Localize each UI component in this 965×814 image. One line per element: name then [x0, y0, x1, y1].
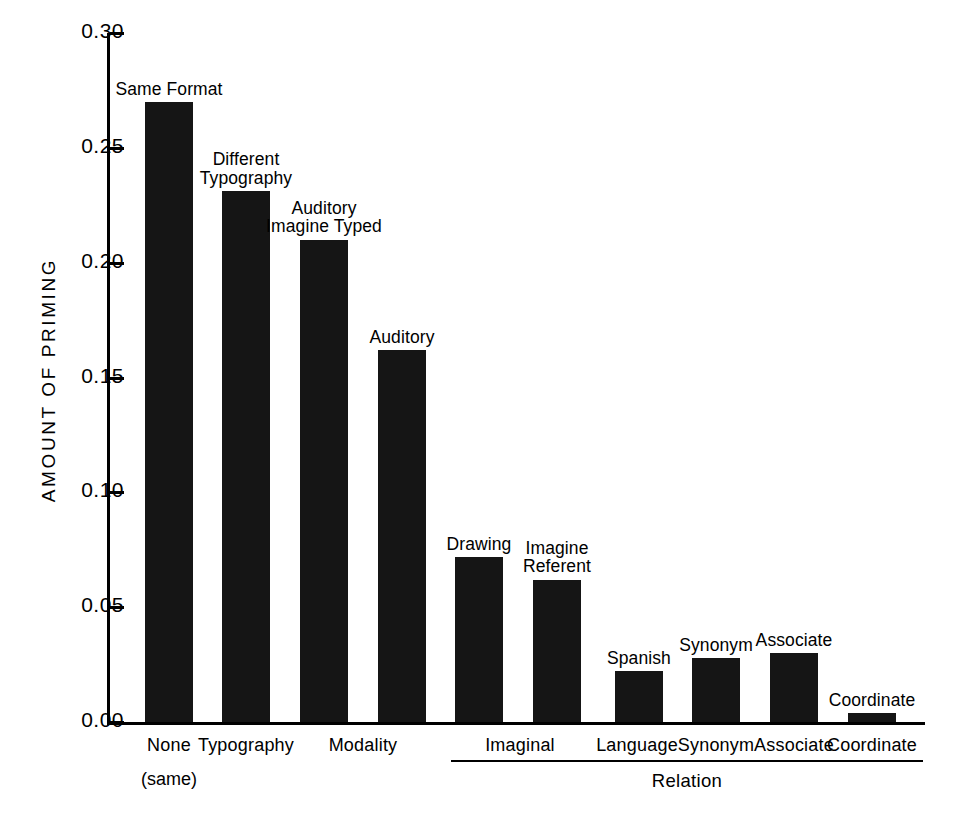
x-axis-tick-label: Coordinate [772, 735, 965, 756]
bar [145, 102, 193, 722]
bar-value-label: Same Format [87, 80, 252, 99]
relation-group-rule [451, 760, 923, 762]
x-axis-line [107, 722, 925, 725]
bar [300, 240, 348, 722]
bar [222, 191, 270, 722]
bar-chart-figure: AMOUNT OF PRIMING 0.300.250.200.150.100.… [0, 0, 965, 814]
bar-value-label: Auditory Imagine Typed [242, 199, 407, 236]
y-axis-tick-label: 0.25 [28, 134, 124, 158]
bar [615, 671, 663, 722]
bar-value-label: Auditory [320, 328, 485, 347]
bar [848, 713, 896, 722]
y-axis-tick-label: 0.30 [28, 19, 124, 43]
y-axis-tick-label: 0.20 [28, 249, 124, 273]
bar-value-label: Imagine Referent [475, 539, 640, 576]
y-axis-tick-label: 0.15 [28, 364, 124, 388]
y-axis-tick-label: 0.00 [28, 708, 124, 732]
x-axis-sub-label: (same) [69, 769, 269, 790]
bar [455, 557, 503, 722]
bar [692, 658, 740, 722]
bar-value-label: Associate [712, 631, 877, 650]
bar [770, 653, 818, 722]
y-axis-tick-label: 0.05 [28, 593, 124, 617]
y-axis-tick-label: 0.10 [28, 478, 124, 502]
bar-value-label: Different Typography [164, 150, 329, 187]
x-axis-group-title: Relation [537, 770, 837, 792]
bar-value-label: Coordinate [790, 691, 955, 710]
